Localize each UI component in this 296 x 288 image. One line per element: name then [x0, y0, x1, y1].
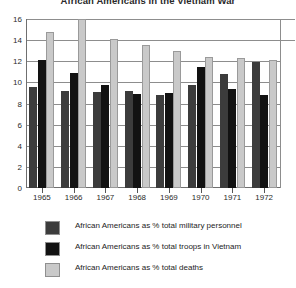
x-tick-label: 1969	[160, 193, 178, 202]
bar	[70, 73, 78, 188]
y-tick-label: 2	[18, 162, 22, 171]
x-tick-label: 1968	[128, 193, 146, 202]
x-tick-label: 1965	[33, 193, 51, 202]
y-tick-label: 4	[18, 141, 22, 150]
y-tick-label: 10	[13, 78, 22, 87]
bar	[205, 57, 213, 188]
legend-label-military-personnel: African Americans as % total military pe…	[75, 221, 242, 230]
legend-swatch-military-personnel	[45, 221, 60, 235]
x-tick-label: 1970	[192, 193, 210, 202]
y-tick-label: 12	[13, 57, 22, 66]
chart-legend: African Americans as % total military pe…	[0, 218, 296, 281]
bar	[46, 32, 54, 188]
x-tick-label: 1971	[223, 193, 241, 202]
legend-swatch-total-deaths	[45, 263, 60, 277]
y-tick-label: 0	[18, 184, 22, 193]
bar-groups	[26, 19, 280, 188]
chart-page: African Americans in the Vietnam War 024…	[0, 0, 296, 288]
y-tick-label: 8	[18, 99, 22, 108]
bar	[197, 67, 205, 188]
legend-item: African Americans as % total military pe…	[0, 218, 296, 239]
bar	[173, 51, 181, 188]
y-tick-label: 16	[13, 15, 22, 24]
bar	[260, 95, 268, 188]
bar	[156, 95, 164, 188]
x-tick-label: 1967	[96, 193, 114, 202]
bar	[38, 60, 46, 188]
bar	[125, 91, 133, 188]
legend-label-troops-in-vietnam: African Americans as % total troops in V…	[75, 242, 241, 251]
legend-item: African Americans as % total troops in V…	[0, 239, 296, 260]
bar	[220, 74, 228, 188]
bar	[228, 89, 236, 188]
bar	[237, 58, 245, 188]
bar	[165, 93, 173, 188]
bar	[93, 92, 101, 188]
legend-swatch-troops-in-vietnam	[45, 242, 60, 256]
legend-label-total-deaths: African Americans as % total deaths	[75, 263, 203, 272]
y-axis-labels: 0246810121416	[0, 14, 24, 189]
chart-area: 0246810121416	[0, 14, 296, 194]
bar	[61, 91, 69, 188]
y-tick-label: 14	[13, 36, 22, 45]
x-tick-label: 1966	[65, 193, 83, 202]
chart-title: African Americans in the Vietnam War	[0, 0, 296, 6]
bar	[78, 19, 86, 188]
y-tick-label: 6	[18, 120, 22, 129]
x-axis-labels: 19651966196719681969197019711972	[0, 193, 296, 207]
bar	[269, 60, 277, 188]
bar	[142, 45, 150, 188]
bar	[110, 39, 118, 188]
x-tick-label: 1972	[255, 193, 273, 202]
bar	[188, 85, 196, 189]
legend-item: African Americans as % total deaths	[0, 260, 296, 281]
bar	[252, 62, 260, 188]
bar	[101, 85, 109, 189]
bar	[29, 87, 37, 188]
bar	[133, 94, 141, 188]
